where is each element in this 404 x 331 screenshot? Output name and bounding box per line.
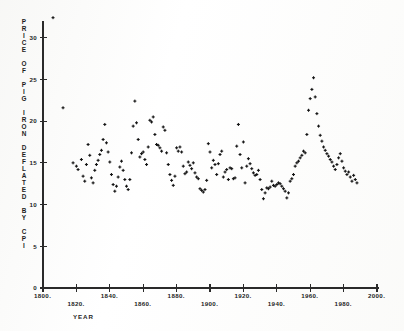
data-point [148,119,151,122]
y-axis-title-char: I [23,88,25,95]
data-point [329,158,332,161]
data-point [72,161,75,164]
data-point [135,121,138,124]
y-axis-title-char: P [22,18,27,25]
data-point [319,134,322,137]
y-axis-title-char: I [23,32,25,39]
data-point [354,178,357,181]
y-axis-title-char: R [22,116,27,123]
y-axis-title-char: E [22,46,27,53]
data-point [177,150,180,153]
y-axis-title-char: N [22,130,27,137]
y-tick-label: 15 [30,159,38,166]
x-tick-label: 1860. [134,300,151,307]
y-axis-title-char: A [22,172,27,179]
y-axis-title-char: B [22,207,27,214]
data-point [107,151,110,154]
data-point [115,185,118,188]
data-point [285,196,288,199]
data-point [187,161,190,164]
data-point [330,161,333,164]
data-point [249,162,252,165]
y-axis-title: PRICEOFPIGIRONDEFLATEDBYCPI [22,18,27,249]
data-point [224,171,227,174]
data-point [75,165,78,168]
data-point [280,185,283,188]
data-point [193,171,196,174]
data-point [282,187,285,190]
data-point [297,160,300,163]
data-point [332,165,335,168]
data-point [324,149,327,152]
data-point [83,180,86,183]
data-point [222,176,225,179]
data-point [220,150,223,153]
x-tick-label: 2000. [368,292,385,299]
data-point [132,125,135,128]
data-point [215,173,218,176]
data-point [247,157,250,160]
data-point [284,190,287,193]
data-point [250,167,253,170]
data-point [118,166,121,169]
data-point [252,171,255,174]
data-point [180,151,183,154]
data-point [163,129,166,132]
data-point [205,179,208,182]
y-axis-title-char: C [22,228,27,235]
data-point [150,120,153,123]
data-point [170,179,173,182]
data-point [320,140,323,143]
data-point [108,161,111,164]
data-point [207,142,210,145]
data-point [312,76,315,79]
data-point [153,133,156,136]
data-point [322,145,325,148]
x-tick-label: 1800. [34,292,51,299]
y-axis-title-char: T [22,179,26,186]
data-point [90,176,93,179]
data-point [347,171,350,174]
data-point [225,168,228,171]
data-point [188,164,191,167]
data-point [80,158,83,161]
y-tick-label: 20 [30,117,38,124]
data-point [183,172,186,175]
data-point [305,133,308,136]
data-point [299,156,302,159]
data-point [217,162,220,165]
data-point [130,151,133,154]
data-point [117,176,120,179]
data-point [88,154,91,157]
data-point [172,184,175,187]
y-axis-title-char: R [22,25,27,32]
data-point [110,173,113,176]
x-tick-label: 1880. [168,292,185,299]
y-tick-label: 0 [33,284,37,291]
data-point [264,191,267,194]
data-point [239,153,242,156]
data-point [235,145,238,148]
data-point [182,165,185,168]
data-point [82,175,85,178]
data-point [240,166,243,169]
data-point [325,152,328,155]
y-tick-label: 25 [30,76,38,83]
y-axis-title-char: P [22,81,27,88]
data-point [142,151,145,154]
data-point [160,150,163,153]
data-point [185,171,188,174]
data-point [112,183,115,186]
x-axis-title-text: YEAR [73,313,94,320]
y-axis-title-char: P [22,235,27,242]
data-point [317,125,320,128]
data-point [152,115,155,118]
data-point [162,125,165,128]
data-point [334,168,337,171]
y-axis-title-char: F [22,67,26,74]
data-point [97,159,100,162]
data-point [92,181,95,184]
data-point [102,138,105,141]
data-point [242,140,245,143]
data-point [202,191,205,194]
